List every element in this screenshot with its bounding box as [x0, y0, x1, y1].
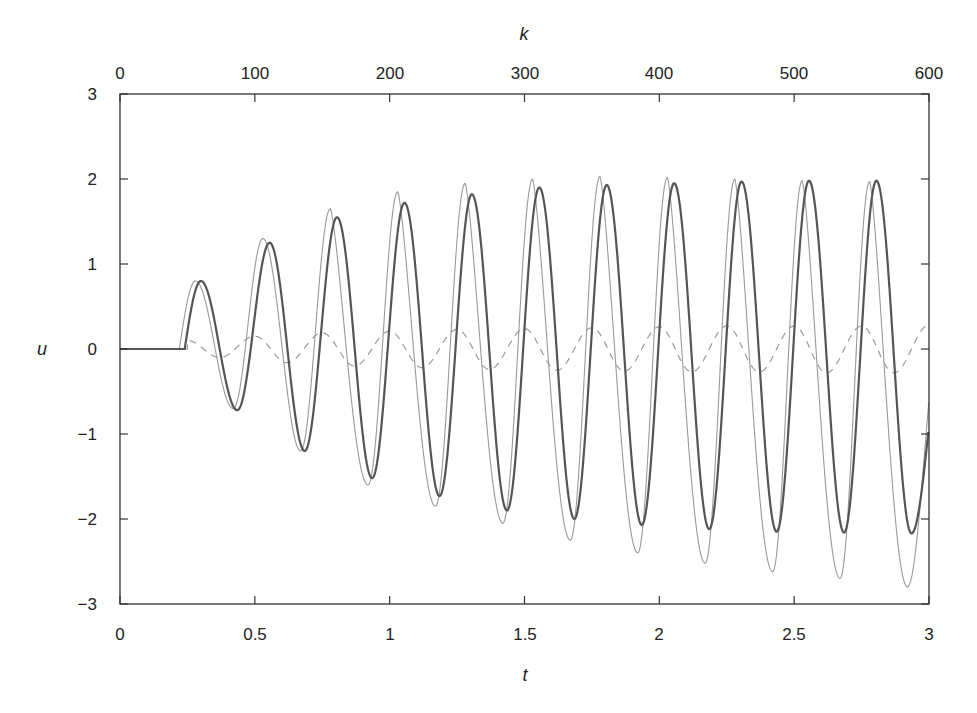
- x-tick-label: 2.5: [782, 625, 806, 644]
- y-tick-label: 2: [88, 170, 97, 189]
- y-axis: 3 2 1 0 −1 −2 −3 u: [37, 85, 97, 614]
- x-axis-label: t: [522, 665, 528, 685]
- x-tick-label: 1: [385, 625, 394, 644]
- plot-frame: [120, 94, 929, 604]
- x2-tick-label: 500: [780, 64, 808, 83]
- y-axis-label: u: [37, 339, 47, 359]
- line-chart: 0 0.5 1 1.5 2 2.5 3 t 0 100 200 300 400 …: [0, 0, 977, 713]
- x-tick-label: 0: [115, 625, 124, 644]
- x-tick-label: 3: [924, 625, 933, 644]
- axis-ticks: [120, 94, 929, 604]
- plot-series: [120, 176, 929, 587]
- series-reference: [120, 176, 929, 587]
- x-tick-label: 2: [654, 625, 663, 644]
- x2-axis-label: k: [520, 24, 530, 44]
- x-axis-bottom: 0 0.5 1 1.5 2 2.5 3 t: [115, 625, 933, 685]
- x2-tick-label: 600: [915, 64, 943, 83]
- y-tick-label: 1: [88, 255, 97, 274]
- x-tick-label: 0.5: [243, 625, 267, 644]
- x-tick-label: 1.5: [513, 625, 537, 644]
- x2-tick-label: 200: [376, 64, 404, 83]
- x-axis-top: 0 100 200 300 400 500 600 k: [115, 24, 943, 83]
- y-tick-label: 0: [88, 340, 97, 359]
- x2-tick-label: 300: [511, 64, 539, 83]
- x2-tick-label: 400: [645, 64, 673, 83]
- y-tick-label: −2: [78, 510, 97, 529]
- x2-tick-label: 100: [241, 64, 269, 83]
- x2-tick-label: 0: [115, 64, 124, 83]
- y-tick-label: −1: [78, 425, 97, 444]
- y-tick-label: −3: [78, 595, 97, 614]
- y-tick-label: 3: [88, 85, 97, 104]
- series-response: [120, 181, 928, 534]
